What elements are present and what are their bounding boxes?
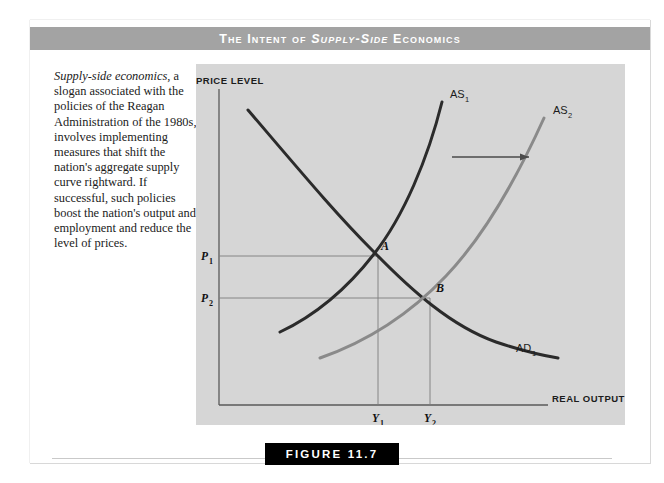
svg-text:1: 1: [380, 419, 384, 425]
shift-arrow-icon: [452, 154, 529, 161]
x-axis-label: REAL OUTPUT: [552, 393, 625, 404]
equilibrium-point-a-label: A: [380, 239, 389, 253]
svg-text:AS: AS: [553, 104, 568, 116]
curve-label-as1: AS 1: [450, 88, 469, 104]
caption-body: , a slogan associated with the policies …: [54, 69, 196, 250]
curve-ad1: [248, 110, 558, 358]
caption-lead-term: Supply-side economics: [54, 69, 167, 83]
figure-caption: Supply-side economics, a slogan associat…: [54, 69, 202, 251]
figure-number-label: FIGURE 11.7: [286, 448, 379, 460]
title-italic: Supply-Side: [311, 32, 388, 46]
x-tick-y1: Y 1: [372, 412, 384, 425]
y-axis-label: PRICE LEVEL: [196, 75, 264, 86]
title-suffix: Economics: [388, 32, 460, 46]
svg-text:AD: AD: [516, 342, 531, 354]
svg-text:2: 2: [568, 111, 572, 120]
curve-as1: [280, 102, 442, 332]
svg-text:P: P: [201, 250, 209, 262]
supply-demand-chart: PRICE LEVEL REAL OUTPUT AS 1 AS 2 AD 1: [196, 64, 625, 425]
title-prefix: The Intent of: [219, 32, 311, 46]
svg-text:1: 1: [532, 349, 536, 358]
x-tick-y2: Y 2: [424, 412, 436, 425]
svg-text:Y: Y: [424, 412, 432, 424]
page-title: The Intent of Supply-Side Economics: [219, 32, 461, 46]
svg-text:2: 2: [432, 419, 436, 425]
curve-label-ad1: AD 1: [516, 342, 536, 358]
svg-text:1: 1: [209, 257, 213, 266]
y-tick-p1: P 1: [201, 250, 213, 266]
svg-text:AS: AS: [450, 88, 465, 100]
svg-text:Y: Y: [372, 412, 380, 424]
figure-number-box: FIGURE 11.7: [265, 443, 399, 465]
svg-text:1: 1: [465, 95, 469, 104]
figure-title-banner: The Intent of Supply-Side Economics: [30, 27, 650, 50]
chart-panel: PRICE LEVEL REAL OUTPUT AS 1 AS 2 AD 1: [196, 64, 625, 425]
svg-text:P: P: [201, 292, 209, 304]
equilibrium-point-b-label: B: [435, 281, 444, 295]
y-tick-p2: P 2: [201, 292, 213, 308]
curve-label-as2: AS 2: [553, 104, 572, 120]
curve-as2: [320, 118, 544, 358]
svg-text:2: 2: [209, 299, 213, 308]
